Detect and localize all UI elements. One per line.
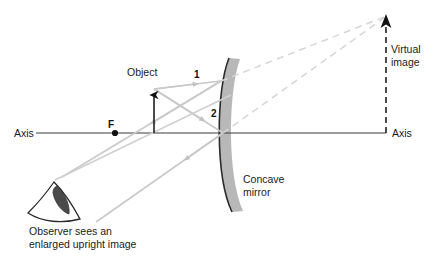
diagram-background bbox=[0, 0, 433, 262]
virtual-image-label-line1: Virtual bbox=[391, 43, 421, 55]
focal-point-label: F bbox=[108, 119, 114, 130]
observer-caption-line2: enlarged upright image bbox=[29, 238, 137, 250]
observer-caption-line1: Observer sees an bbox=[29, 225, 112, 237]
axis-label-left: Axis bbox=[14, 127, 34, 139]
axis-label-right: Axis bbox=[392, 127, 412, 139]
concave-mirror-label-line2: mirror bbox=[243, 186, 271, 198]
virtual-image-label-line2: image bbox=[391, 56, 420, 68]
ray-diagram-canvas: Axis Axis F Object 1 2 Concave mirror Vi… bbox=[0, 0, 433, 262]
concave-mirror-label-line1: Concave bbox=[243, 173, 285, 185]
focal-point-dot bbox=[112, 130, 118, 136]
ray-1-label: 1 bbox=[194, 69, 200, 80]
object-label: Object bbox=[127, 66, 157, 78]
ray-2-label: 2 bbox=[211, 108, 217, 119]
concave-mirror-diagram: Axis Axis F Object 1 2 Concave mirror Vi… bbox=[0, 0, 433, 262]
